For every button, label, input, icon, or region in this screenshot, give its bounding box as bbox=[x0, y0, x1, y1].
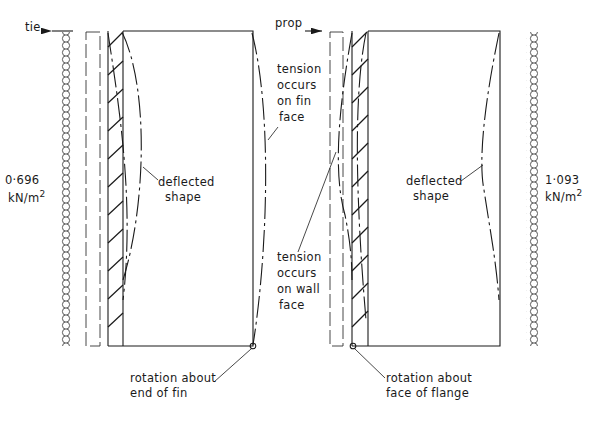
left-rotation-label-2: end of fin bbox=[130, 386, 188, 400]
svg-text:occurs: occurs bbox=[277, 266, 317, 280]
right-deflected-label-1: deflected bbox=[406, 174, 463, 188]
svg-text:face: face bbox=[279, 298, 305, 312]
left-original-wall-outline bbox=[86, 32, 100, 346]
right-rotation-label-2: face of flange bbox=[386, 386, 469, 400]
right-rotation-leader bbox=[355, 349, 385, 378]
right-original-wall-outline bbox=[330, 32, 343, 346]
left-pressure-load-beads bbox=[61, 32, 73, 346]
right-deflected-wall-line bbox=[338, 33, 352, 280]
right-rotation-label-1: rotation about bbox=[386, 371, 472, 385]
left-panel: tie 0·696 kN/m2 bbox=[5, 20, 321, 400]
left-load-unit: kN/m2 bbox=[8, 189, 46, 205]
svg-text:occurs: occurs bbox=[277, 78, 317, 92]
right-load-value: 1·093 bbox=[545, 173, 579, 187]
prop-label: prop bbox=[275, 16, 302, 30]
tie-support: tie bbox=[25, 20, 73, 34]
prop-support: prop bbox=[275, 16, 322, 31]
right-pressure-load-beads bbox=[526, 32, 538, 346]
left-load-value: 0·696 bbox=[5, 173, 39, 187]
tension-wall-face-label: tension occurs on wall face bbox=[277, 250, 321, 312]
left-rotation-leader bbox=[214, 349, 251, 382]
svg-text:tension: tension bbox=[277, 62, 321, 76]
right-deflected-leader bbox=[461, 165, 483, 181]
tie-label: tie bbox=[25, 20, 41, 34]
right-load-unit: kN/m2 bbox=[545, 188, 583, 204]
left-deflected-leader bbox=[143, 167, 158, 180]
left-rotation-label-1: rotation about bbox=[130, 371, 216, 385]
left-deflected-label-2: shape bbox=[165, 190, 201, 204]
tension-wall-leader bbox=[298, 152, 336, 252]
left-hatched-flange bbox=[108, 31, 123, 346]
right-deflected-fin-end bbox=[482, 33, 499, 300]
tension-fin-face-label: tension occurs on fin face bbox=[277, 62, 321, 124]
left-deflected-fin-end bbox=[252, 33, 266, 345]
tension-fin-leader bbox=[268, 127, 278, 140]
svg-text:face: face bbox=[279, 110, 305, 124]
left-deflected-fin-line bbox=[122, 32, 141, 280]
svg-text:on fin: on fin bbox=[277, 94, 311, 108]
right-deflected-label-2: shape bbox=[413, 189, 449, 203]
svg-text:tension: tension bbox=[277, 250, 321, 264]
left-deflected-label-1: deflected bbox=[158, 175, 215, 189]
svg-text:on wall: on wall bbox=[277, 282, 320, 296]
fin-wall-deflection-diagram: tie 0·696 kN/m2 bbox=[0, 0, 605, 423]
